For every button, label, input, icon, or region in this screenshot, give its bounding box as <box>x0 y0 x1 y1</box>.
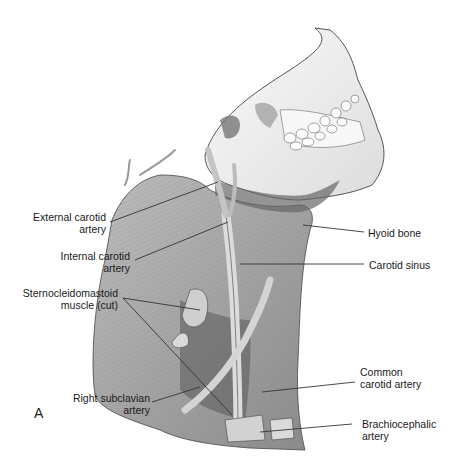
label-line: artery <box>60 404 150 416</box>
label-brachiocephalic-artery: Brachiocephalic artery <box>362 418 436 442</box>
label-line: artery <box>20 223 106 235</box>
panel-letter: A <box>34 405 43 421</box>
label-line: muscle (cut) <box>10 299 118 311</box>
label-sternocleidomastoid-muscle: Sternocleidomastoid muscle (cut) <box>10 287 118 311</box>
label-line: Internal carotid <box>30 250 130 262</box>
label-line: artery <box>30 262 130 274</box>
label-hyoid-bone: Hyoid bone <box>368 227 421 239</box>
label-line: carotid artery <box>360 378 421 390</box>
label-line: artery <box>362 430 436 442</box>
label-line: Carotid sinus <box>369 259 430 271</box>
label-internal-carotid-artery: Internal carotid artery <box>30 250 130 274</box>
label-line: Common <box>360 366 421 378</box>
label-carotid-sinus: Carotid sinus <box>369 259 430 271</box>
label-line: Hyoid bone <box>368 227 421 239</box>
leader-hyoid <box>303 225 364 232</box>
skull <box>205 28 384 200</box>
label-line: Sternocleidomastoid <box>10 287 118 299</box>
label-common-carotid-artery: Common carotid artery <box>360 366 421 390</box>
label-line: Brachiocephalic <box>362 418 436 430</box>
label-external-carotid-artery: External carotid artery <box>20 211 106 235</box>
label-line: Right subclavian <box>60 392 150 404</box>
label-right-subclavian-artery: Right subclavian artery <box>60 392 150 416</box>
label-line: External carotid <box>20 211 106 223</box>
